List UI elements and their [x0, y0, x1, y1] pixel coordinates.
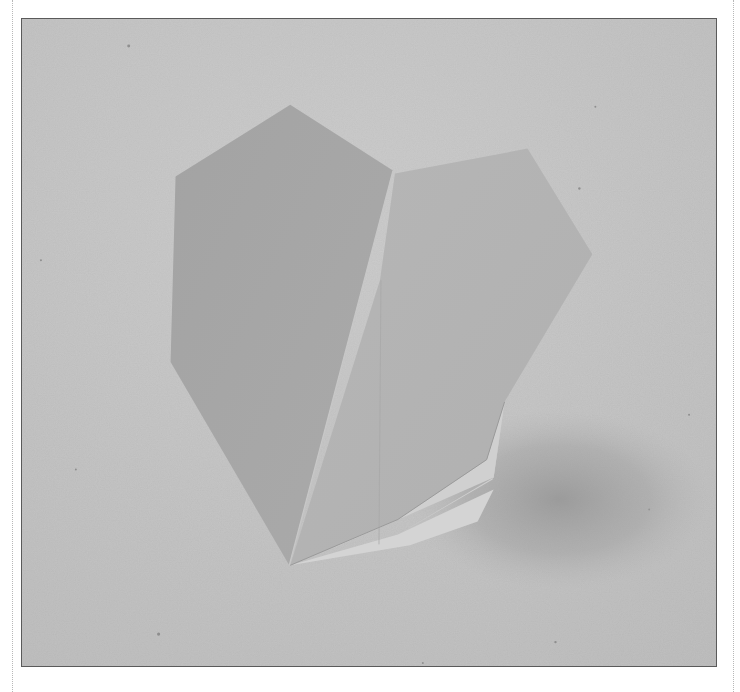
left-margin-dotted-rule [12, 0, 13, 692]
right-margin-dotted-rule [733, 0, 734, 692]
photo-frame: Origami paper heart standing on a textur… [21, 18, 717, 667]
origami-heart-photo [22, 19, 716, 666]
